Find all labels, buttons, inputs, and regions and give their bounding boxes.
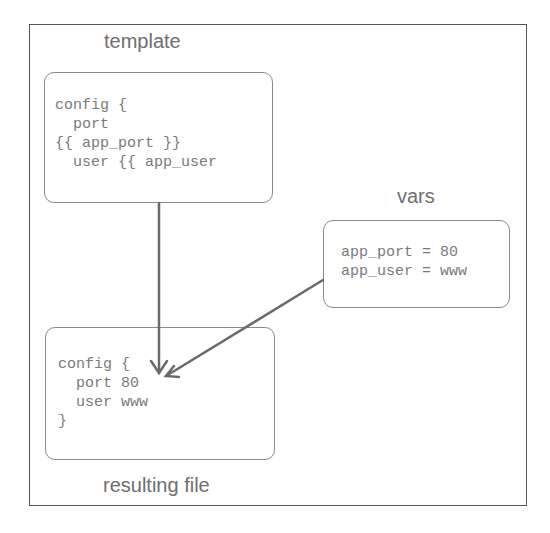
arrows	[0, 0, 550, 533]
vars-to-result-arrow	[166, 280, 323, 376]
